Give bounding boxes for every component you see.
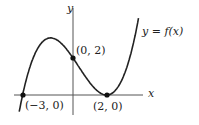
point-neg3-0 <box>20 92 25 97</box>
point-2-0 <box>104 92 109 97</box>
function-label: y = f(x) <box>142 26 183 37</box>
point-label-neg3-0: (−3, 0) <box>25 100 64 111</box>
point-label-0-2: (0, 2) <box>76 45 106 56</box>
y-axis-label: y <box>67 3 73 14</box>
function-curve <box>19 18 138 112</box>
point-0-2 <box>70 55 75 60</box>
point-label-2-0: (2, 0) <box>93 101 123 112</box>
x-axis-label: x <box>148 88 154 99</box>
